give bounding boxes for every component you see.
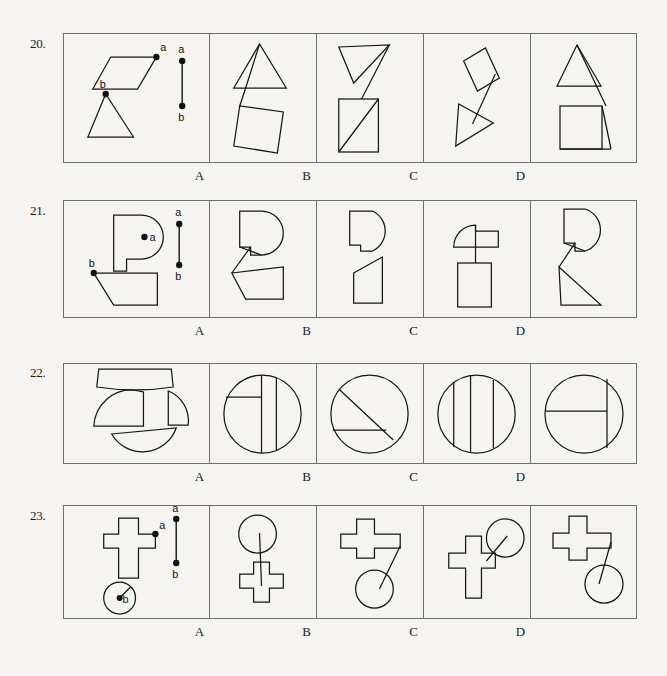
question-20-option-b[interactable] bbox=[317, 34, 424, 162]
question-22-label-b: B bbox=[253, 469, 360, 485]
question-number-20: 20. bbox=[30, 36, 46, 52]
question-21-label-b: B bbox=[253, 323, 360, 339]
question-20-prompt[interactable]: a b a b bbox=[64, 34, 210, 162]
question-20-label-b: B bbox=[253, 168, 360, 184]
label-a-prompt-21: a bbox=[149, 231, 156, 243]
question-23-option-b[interactable] bbox=[317, 506, 424, 618]
question-22-label-d: D bbox=[467, 469, 574, 485]
question-number-22: 22. bbox=[30, 365, 46, 381]
label-b-prompt-20: b bbox=[100, 78, 106, 90]
question-21-prompt[interactable]: a b a b bbox=[64, 201, 210, 317]
label-b-prompt-23: b bbox=[123, 593, 129, 605]
question-20-label-a: A bbox=[146, 168, 253, 184]
question-22-prompt[interactable] bbox=[64, 364, 210, 463]
question-23-label-d: D bbox=[467, 624, 574, 640]
question-number-23: 23. bbox=[30, 508, 46, 524]
question-21-option-b[interactable] bbox=[317, 201, 424, 317]
question-number-21: 21. bbox=[30, 203, 46, 219]
question-22-label-c: C bbox=[360, 469, 467, 485]
question-22-option-a[interactable] bbox=[210, 364, 317, 463]
question-21-option-c[interactable] bbox=[424, 201, 531, 317]
question-21-option-d[interactable] bbox=[531, 201, 638, 317]
question-20-label-c: C bbox=[360, 168, 467, 184]
question-23-label-b: B bbox=[253, 624, 360, 640]
question-23-label-a: A bbox=[146, 624, 253, 640]
question-23-option-c[interactable] bbox=[424, 506, 531, 618]
question-20-panel-strip: a b a b bbox=[63, 33, 637, 163]
label-a-ref-20: a bbox=[178, 43, 185, 55]
question-21-label-a: A bbox=[146, 323, 253, 339]
question-23-option-a[interactable] bbox=[210, 506, 317, 618]
label-a-prompt-20: a bbox=[160, 41, 167, 53]
question-21-panel-strip: a b a b bbox=[63, 200, 637, 318]
question-22-panel-strip bbox=[63, 363, 637, 464]
question-23-option-d[interactable] bbox=[531, 506, 638, 618]
question-20-option-d[interactable] bbox=[531, 34, 638, 162]
question-21-option-a[interactable] bbox=[210, 201, 317, 317]
question-22-option-b[interactable] bbox=[317, 364, 424, 463]
question-21-label-c: C bbox=[360, 323, 467, 339]
question-22-option-c[interactable] bbox=[424, 364, 531, 463]
label-b-ref-23: b bbox=[172, 568, 178, 580]
question-23-prompt[interactable]: a b a b bbox=[64, 506, 210, 618]
question-22-label-a: A bbox=[146, 469, 253, 485]
label-a-ref-21: a bbox=[175, 206, 182, 218]
question-23-panel-strip: a b a b bbox=[63, 505, 637, 619]
label-a-prompt-23: a bbox=[159, 519, 166, 531]
test-sheet: 20. a b a bbox=[0, 0, 667, 676]
label-b-ref-21: b bbox=[175, 270, 181, 282]
label-a-ref-23: a bbox=[172, 506, 179, 514]
label-b-ref-20: b bbox=[178, 111, 184, 123]
question-20-label-d: D bbox=[467, 168, 574, 184]
question-20-option-a[interactable] bbox=[210, 34, 317, 162]
question-20-option-c[interactable] bbox=[424, 34, 531, 162]
label-b-prompt-21: b bbox=[89, 257, 95, 269]
question-21-label-d: D bbox=[467, 323, 574, 339]
question-22-option-d[interactable] bbox=[531, 364, 638, 463]
question-23-label-c: C bbox=[360, 624, 467, 640]
